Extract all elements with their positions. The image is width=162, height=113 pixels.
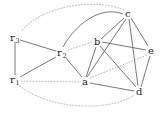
dotted-edge-r3-c: [22, 4, 124, 30]
node-r1-subscript: 1: [16, 79, 20, 87]
node-c: c: [125, 8, 131, 19]
node-e: e: [148, 45, 154, 56]
edge-c-e: [131, 18, 148, 46]
dotted-edge-r1-d: [20, 86, 134, 106]
edge-r1-r2: [20, 57, 56, 77]
dotted-edges: [20, 4, 147, 106]
node-e-label: e: [148, 45, 154, 56]
node-d-label: d: [136, 86, 143, 97]
edge-r2-a: [66, 58, 82, 77]
edge-r2-c: [63, 12, 123, 47]
edge-a-d: [90, 83, 134, 91]
node-b: b: [94, 36, 100, 47]
node-r1: r 1: [10, 74, 20, 87]
edge-e-d: [141, 56, 150, 87]
node-r3-label: r: [10, 32, 15, 43]
node-b-label: b: [94, 36, 100, 47]
dotted-edge-r2-b: [68, 42, 92, 50]
node-d: d: [136, 86, 143, 97]
edge-b-e: [102, 42, 146, 50]
node-a: a: [82, 76, 88, 87]
node-a-label: a: [82, 76, 88, 87]
edge-r3-r2: [20, 40, 56, 51]
edge-b-c: [101, 18, 124, 39]
node-r1-label: r: [10, 74, 15, 85]
node-r3-subscript: 3: [16, 37, 20, 45]
dotted-edge-r1-a: [21, 81, 80, 82]
edge-c-d: [129, 19, 138, 86]
node-r2-subscript: 2: [63, 52, 67, 60]
node-c-label: c: [125, 8, 131, 19]
edge-a-c: [87, 19, 126, 77]
node-r2-label: r: [57, 47, 62, 58]
edge-a-b: [86, 47, 96, 77]
edge-b-d: [100, 46, 136, 87]
node-r3: r 3: [10, 32, 20, 45]
node-r2: r 2: [57, 47, 67, 60]
graph-diagram: r 3 r 2 r 1 a b c e d: [0, 0, 162, 113]
